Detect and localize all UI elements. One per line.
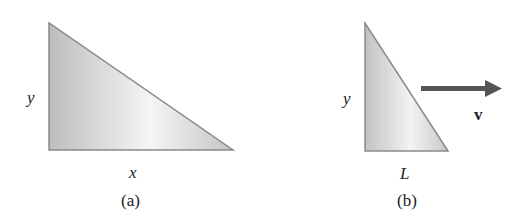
label-y-b: y: [341, 89, 351, 108]
caption-b: (b): [397, 191, 417, 210]
panel-a: y x (a): [25, 23, 233, 210]
label-L-b: L: [399, 164, 409, 183]
velocity-arrow-icon: [421, 80, 502, 97]
panel-b: y L (b) v: [341, 23, 502, 210]
caption-a: (a): [121, 191, 140, 210]
triangle-a: [49, 23, 233, 150]
velocity-label: v: [474, 105, 483, 124]
label-x-a: x: [128, 163, 137, 182]
figure: y x (a) y L (b) v: [0, 0, 523, 217]
label-y-a: y: [25, 88, 35, 107]
